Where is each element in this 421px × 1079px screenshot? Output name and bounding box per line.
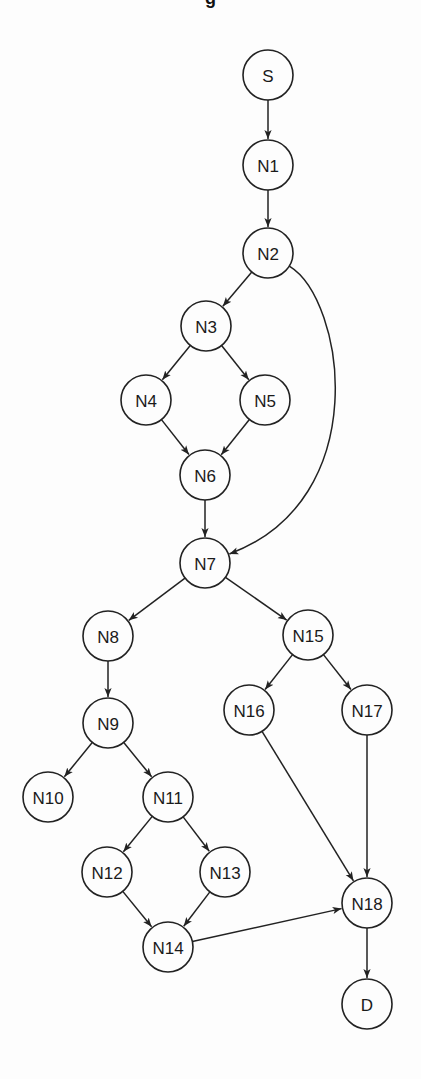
edge-n3-to-n5: [222, 346, 249, 380]
node-n13: N13: [200, 847, 250, 897]
node-label: N16: [233, 702, 264, 721]
edge-n2-to-n3: [223, 272, 252, 306]
nodes-layer: SN1N2N3N4N5N6N7N8N9N10N11N12N13N14N15N16…: [23, 50, 392, 1029]
edge-n9-to-n11: [124, 742, 152, 776]
edge-n5-to-n6: [221, 420, 249, 455]
node-n3: N3: [181, 301, 231, 351]
node-label: N17: [351, 702, 382, 721]
node-label: N8: [97, 628, 119, 647]
node-n15: N15: [283, 610, 333, 660]
node-label: N10: [32, 789, 63, 808]
node-n11: N11: [143, 772, 193, 822]
node-label: N7: [194, 555, 216, 574]
node-label: N12: [91, 864, 122, 883]
node-label: N14: [152, 939, 183, 958]
node-label: N4: [135, 392, 157, 411]
node-label: S: [262, 67, 273, 86]
node-n9: N9: [83, 698, 133, 748]
edge-n9-to-n10: [64, 742, 92, 776]
node-n7: N7: [180, 538, 230, 588]
node-n17: N17: [342, 685, 392, 735]
node-n14: N14: [143, 922, 193, 972]
node-label: N1: [257, 157, 279, 176]
node-n12: N12: [82, 847, 132, 897]
node-n6: N6: [180, 450, 230, 500]
node-label: N2: [257, 245, 279, 264]
node-label: N6: [194, 467, 216, 486]
node-s: S: [243, 50, 293, 100]
node-n1: N1: [243, 140, 293, 190]
edge-n14-to-n18: [192, 909, 341, 942]
node-n10: N10: [23, 772, 73, 822]
node-label: D: [361, 996, 373, 1015]
edges-layer: [64, 100, 367, 978]
edge-n16-to-n18: [262, 731, 353, 880]
edge-n11-to-n12: [123, 816, 152, 851]
node-d: D: [342, 979, 392, 1029]
node-label: N5: [254, 392, 276, 411]
node-label: N15: [292, 627, 323, 646]
control-flow-graph: SN1N2N3N4N5N6N7N8N9N10N11N12N13N14N15N16…: [0, 0, 421, 1079]
node-n4: N4: [121, 375, 171, 425]
edge-n13-to-n14: [184, 892, 210, 926]
node-n8: N8: [83, 611, 133, 661]
edge-n15-to-n17: [323, 655, 350, 690]
edge-n15-to-n16: [265, 655, 292, 690]
node-n16: N16: [224, 685, 274, 735]
node-n5: N5: [240, 375, 290, 425]
edge-n7-to-n15: [225, 577, 286, 620]
edge-n3-to-n4: [162, 345, 190, 379]
node-n2: N2: [243, 228, 293, 278]
node-label: N13: [209, 864, 240, 883]
edge-n12-to-n14: [123, 891, 152, 926]
node-label: N9: [97, 715, 119, 734]
edge-n4-to-n6: [161, 420, 188, 455]
node-label: N11: [153, 789, 183, 808]
node-label: N3: [195, 318, 217, 337]
node-label: N18: [351, 895, 382, 914]
edge-n7-to-n8: [129, 578, 185, 620]
node-n18: N18: [342, 878, 392, 928]
edge-n11-to-n13: [183, 817, 209, 851]
